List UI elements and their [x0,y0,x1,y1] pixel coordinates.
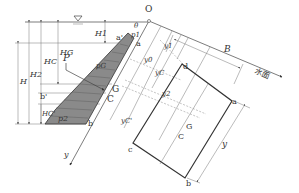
label-b-right: b [186,179,191,188]
label-H: H [19,77,28,86]
label-d: d [183,62,188,71]
pressure-distribution [45,33,134,124]
label-H1: H1 [94,29,107,38]
label-p2: p2 [58,114,68,123]
label-y-axis: y [63,150,69,159]
label-yC-prime: yC' [120,117,132,125]
label-HC: HC [43,57,57,66]
label-c: c [128,145,133,154]
label-P: P [62,52,70,63]
label-p1: p1 [131,31,140,39]
label-C-right: C [178,132,184,141]
label-y2: y2 [161,90,171,98]
label-y-length: y [221,139,228,149]
label-pG: pG [96,62,106,70]
water-level-icon [74,16,82,21]
label-b-left: b [88,119,93,128]
label-yC: yC [154,69,165,77]
plate-rectangle [133,64,232,178]
label-C: C [107,94,114,104]
label-y0: y0 [143,56,153,64]
label-B: B [223,44,231,54]
label-origin: O [145,4,152,14]
hydrostatic-diagram: O θ p1 a' a H1 HG HC H2 H P pG G C b' HC… [0,0,299,193]
label-water-surface: 水面 [253,66,272,81]
label-a-right: a [232,97,237,106]
label-G: G [112,84,119,94]
label-H2: H2 [29,70,42,79]
label-b-prime: b' [40,92,47,101]
label-theta: θ [134,22,139,30]
label-G-right: G [186,122,192,131]
label-HC-prime: HC' [41,110,55,118]
label-y1: y1 [163,42,172,50]
water-surface [25,16,148,24]
label-a-prime: a' [116,33,123,42]
label-a: a [136,39,141,48]
